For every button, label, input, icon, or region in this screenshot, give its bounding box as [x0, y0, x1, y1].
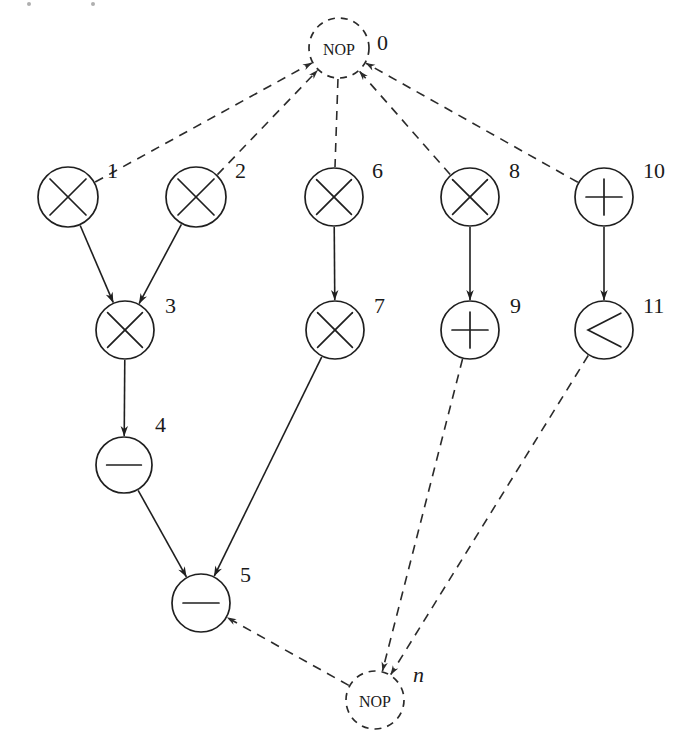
- node-index-label-4: 4: [155, 412, 166, 437]
- edge-6-to-7: [334, 227, 335, 300]
- node-index-label-2: 2: [235, 158, 246, 183]
- node-10[interactable]: [575, 168, 633, 226]
- edge-7-to-5: [214, 357, 322, 576]
- edge-0-to-2: [217, 70, 317, 174]
- node-7[interactable]: [306, 301, 364, 359]
- node-index-label-5: 5: [240, 562, 251, 587]
- node-index-label-1: 1: [107, 158, 118, 183]
- node-1[interactable]: [38, 167, 98, 227]
- node-n[interactable]: NOP: [346, 671, 404, 729]
- edges-layer: [80, 63, 604, 685]
- graph-canvas: NOPNOP 01234567891011n: [0, 0, 691, 748]
- node-index-label-n: n: [413, 662, 424, 687]
- edge-0-to-10: [366, 63, 578, 182]
- node-6[interactable]: [305, 168, 363, 226]
- edge-11-to-n: [391, 356, 588, 675]
- node-index-label-9: 9: [510, 293, 521, 318]
- edge-0-to-6: [335, 79, 338, 167]
- node-5[interactable]: [172, 574, 230, 632]
- node-index-label-0: 0: [377, 30, 388, 55]
- node-9[interactable]: [441, 301, 499, 359]
- edge-9-to-n: [382, 359, 462, 671]
- node-index-label-8: 8: [509, 158, 520, 183]
- edge-2-to-3: [139, 224, 181, 303]
- edge-4-to-5: [138, 490, 186, 576]
- node-11[interactable]: [575, 301, 633, 359]
- node-index-label-11: 11: [643, 293, 664, 318]
- node-3[interactable]: [96, 301, 154, 359]
- node-8[interactable]: [441, 168, 499, 226]
- edge-1-to-3: [80, 225, 113, 302]
- edge-3-to-4: [124, 360, 125, 436]
- node-2[interactable]: [166, 167, 226, 227]
- edge-0-to-1: [95, 63, 312, 182]
- node-index-label-6: 6: [372, 158, 383, 183]
- node-0[interactable]: NOP: [309, 18, 369, 78]
- node-index-label-7: 7: [374, 293, 385, 318]
- nodes-layer: NOPNOP: [38, 18, 633, 729]
- node-index-label-10: 10: [643, 158, 665, 183]
- node-11-circle[interactable]: [575, 301, 633, 359]
- nop-label: NOP: [323, 41, 355, 58]
- nop-label: NOP: [359, 693, 391, 710]
- node-4[interactable]: [96, 437, 152, 493]
- node-index-label-3: 3: [165, 293, 176, 318]
- edge-5-to-n: [227, 618, 349, 686]
- dependence-graph-figure: NOPNOP 01234567891011n: [0, 0, 691, 748]
